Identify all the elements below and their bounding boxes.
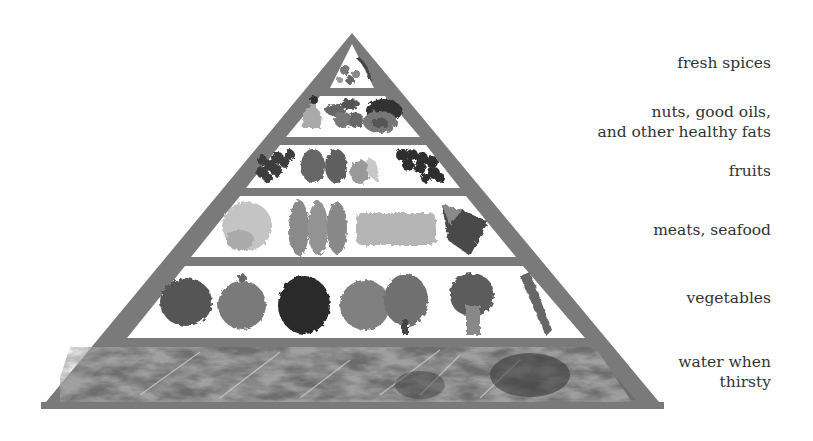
tier-label-vegetables: vegetables	[686, 288, 771, 308]
food-pyramid-diagram: fresh spices nuts, good oils, and other …	[0, 0, 813, 441]
tier-label-fats-line2: and other healthy fats	[597, 122, 771, 142]
tier-label-fruits: fruits	[729, 161, 771, 181]
tier-label-fats-line1: nuts, good oils,	[597, 102, 771, 122]
tier-label-fats: nuts, good oils, and other healthy fats	[597, 102, 771, 142]
tier-label-water-line1: water when	[678, 352, 771, 372]
tier-label-water-line2: thirsty	[678, 372, 771, 392]
tier-label-meats: meats, seafood	[653, 220, 771, 240]
pyramid-base-line	[41, 402, 664, 409]
tier-label-spices: fresh spices	[677, 53, 771, 73]
tier-label-water: water when thirsty	[678, 352, 771, 392]
